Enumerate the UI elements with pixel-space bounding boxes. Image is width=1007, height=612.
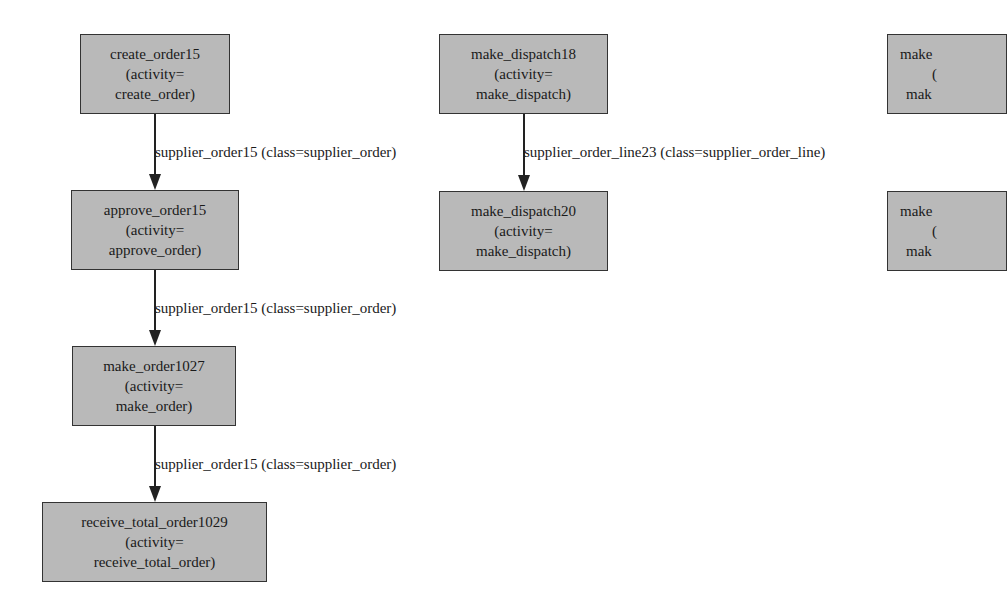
node-activity-prefix: (activity= (494, 221, 552, 241)
edge-label: supplier_order15 (class=supplier_order) (155, 144, 396, 161)
node-receive-total-order1029[interactable]: receive_total_order1029 (activity= recei… (42, 502, 267, 582)
node-approve-order15[interactable]: approve_order15 (activity= approve_order… (71, 190, 239, 270)
node-activity-prefix: (activity= (125, 532, 183, 552)
node-activity-prefix: (activity= (126, 220, 184, 240)
node-activity-value: make_order) (116, 396, 193, 416)
node-title: make_order1027 (103, 356, 205, 376)
node-make-dispatch20[interactable]: make_dispatch20 (activity= make_dispatch… (439, 191, 608, 271)
node-make-order1027[interactable]: make_order1027 (activity= make_order) (72, 346, 236, 426)
arrowhead-icon (518, 175, 530, 191)
node-activity-prefix: (activity= (126, 64, 184, 84)
edge-label: supplier_order15 (class=supplier_order) (155, 456, 396, 473)
node-title: make (900, 201, 932, 221)
edge-label: supplier_order15 (class=supplier_order) (155, 300, 396, 317)
arrowhead-icon (149, 330, 161, 346)
node-activity-value: receive_total_order) (94, 552, 216, 572)
node-title: approve_order15 (104, 200, 206, 220)
node-title: make (900, 44, 932, 64)
node-create-order15[interactable]: create_order15 (activity= create_order) (80, 34, 230, 114)
node-activity-prefix: (activity= (494, 64, 552, 84)
node-partial-top-right[interactable]: make ( mak (887, 34, 1007, 114)
edge-label: supplier_order_line23 (class=supplier_or… (524, 144, 825, 161)
node-activity-value: make_dispatch) (476, 241, 571, 261)
node-activity-prefix: ( (900, 221, 937, 241)
node-title: make_dispatch20 (471, 201, 576, 221)
node-activity-value: mak (900, 84, 932, 104)
node-title: receive_total_order1029 (81, 512, 228, 532)
node-title: make_dispatch18 (471, 44, 576, 64)
node-activity-value: create_order) (115, 84, 195, 104)
node-make-dispatch18[interactable]: make_dispatch18 (activity= make_dispatch… (439, 34, 608, 114)
node-activity-value: approve_order) (109, 240, 201, 260)
node-activity-prefix: (activity= (125, 376, 183, 396)
node-activity-value: make_dispatch) (476, 84, 571, 104)
node-title: create_order15 (110, 44, 200, 64)
node-activity-prefix: ( (900, 64, 937, 84)
arrowhead-icon (149, 486, 161, 502)
arrowhead-icon (149, 174, 161, 190)
node-activity-value: mak (900, 241, 932, 261)
node-partial-bottom-right[interactable]: make ( mak (887, 191, 1007, 271)
